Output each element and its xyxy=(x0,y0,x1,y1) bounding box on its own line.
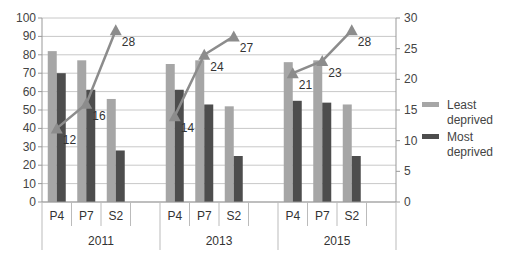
right-tick-label: 30 xyxy=(404,11,418,25)
bar-least-deprived xyxy=(195,60,204,202)
left-tick-label: 80 xyxy=(23,48,37,62)
bar-least-deprived xyxy=(166,64,175,202)
category-label: P7 xyxy=(315,209,330,223)
right-tick-label: 0 xyxy=(404,195,411,209)
left-y-axis: 0102030405060708090100 xyxy=(16,11,42,209)
gap-data-label: 23 xyxy=(328,66,342,80)
left-tick-label: 90 xyxy=(23,29,37,43)
bar-most-deprived xyxy=(352,156,361,202)
legend-swatch-least-deprived xyxy=(422,102,439,107)
legend-label-most-line1: Most xyxy=(447,130,474,144)
gap-data-label: 21 xyxy=(299,78,313,92)
left-tick-label: 20 xyxy=(23,158,37,172)
group-label: 2015 xyxy=(324,234,351,248)
category-label: S2 xyxy=(108,209,123,223)
gap-data-label: 28 xyxy=(358,35,372,49)
right-tick-label: 5 xyxy=(404,164,411,178)
legend-label-most-line2: deprived xyxy=(447,145,493,159)
right-tick-label: 20 xyxy=(404,72,418,86)
right-tick-label: 25 xyxy=(404,42,418,56)
bar-least-deprived xyxy=(107,99,116,202)
triangle-marker-icon xyxy=(110,24,122,35)
legend-label-least-line1: Least xyxy=(447,98,477,112)
bar-most-deprived xyxy=(234,156,243,202)
left-tick-label: 50 xyxy=(23,103,37,117)
gap-data-label: 24 xyxy=(210,60,224,74)
left-tick-label: 0 xyxy=(29,195,36,209)
category-label: S2 xyxy=(226,209,241,223)
left-tick-label: 60 xyxy=(23,85,37,99)
right-tick-label: 10 xyxy=(404,134,418,148)
category-label: P7 xyxy=(197,209,212,223)
gap-data-label: 28 xyxy=(122,35,136,49)
bar-least-deprived xyxy=(313,60,322,202)
category-label: S2 xyxy=(344,209,359,223)
left-tick-label: 30 xyxy=(23,140,37,154)
category-label: P4 xyxy=(285,209,300,223)
triangle-marker-icon xyxy=(346,24,358,35)
left-tick-label: 10 xyxy=(23,177,37,191)
bar-most-deprived xyxy=(204,104,213,202)
left-tick-label: 70 xyxy=(23,66,37,80)
group-label: 2011 xyxy=(88,234,114,248)
category-label: P7 xyxy=(79,209,94,223)
bar-most-deprived xyxy=(293,101,302,202)
group-label: 2013 xyxy=(206,234,233,248)
chart: 0102030405060708090100 051015202530 1216… xyxy=(0,0,509,256)
bar-least-deprived xyxy=(343,104,352,202)
legend-swatch-most-deprived xyxy=(422,134,439,139)
gap-data-label: 12 xyxy=(63,133,77,147)
legend-label-least-line2: deprived xyxy=(447,113,493,127)
bar-series xyxy=(48,51,361,202)
right-y-axis: 051015202530 xyxy=(396,11,418,209)
gap-data-label: 16 xyxy=(92,109,106,123)
bar-most-deprived xyxy=(116,150,125,202)
bar-least-deprived xyxy=(284,62,293,202)
left-tick-label: 100 xyxy=(16,11,36,25)
category-label: P4 xyxy=(167,209,182,223)
category-label: P4 xyxy=(49,209,64,223)
gap-data-label: 27 xyxy=(240,41,254,55)
legend: Least deprived Most deprived xyxy=(422,98,493,159)
bar-least-deprived xyxy=(225,106,234,202)
bar-most-deprived xyxy=(322,103,331,202)
x-axis: P4P7S22011P4P7S22013P4P7S22015 xyxy=(42,202,396,250)
bar-least-deprived xyxy=(77,60,86,202)
right-tick-label: 15 xyxy=(404,103,418,117)
gap-data-label: 14 xyxy=(181,121,195,135)
left-tick-label: 40 xyxy=(23,121,37,135)
